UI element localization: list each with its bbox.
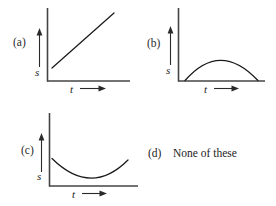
option-panel-a[interactable]: (a) s t bbox=[0, 0, 138, 103]
option-a-s-arrow-head bbox=[37, 28, 43, 36]
option-d-text: None of these bbox=[173, 147, 237, 159]
option-b-graph bbox=[138, 0, 276, 103]
option-b-s-arrow-head bbox=[168, 26, 174, 34]
option-b-t-arrow-head bbox=[232, 86, 240, 92]
option-panel-c[interactable]: (c) s t bbox=[0, 103, 138, 206]
option-c-t-arrow-head bbox=[100, 191, 108, 197]
option-panel-b[interactable]: (b) s t bbox=[138, 0, 276, 103]
option-b-data-curve bbox=[185, 60, 258, 80]
option-d-label: (d) bbox=[148, 147, 161, 159]
question-options-figure: (a) s t (b) s t bbox=[0, 0, 276, 206]
option-c-data-curve bbox=[52, 159, 128, 179]
option-c-graph bbox=[0, 103, 138, 206]
option-c-s-arrow-head bbox=[39, 133, 45, 141]
option-a-graph bbox=[0, 0, 138, 103]
option-a-data-line bbox=[52, 13, 114, 68]
option-panel-d[interactable]: (d) None of these bbox=[138, 103, 276, 206]
option-a-t-arrow-head bbox=[99, 86, 107, 92]
